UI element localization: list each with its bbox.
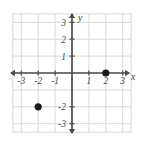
y-tick-label: -2 — [58, 102, 66, 112]
x-tick-label: 3 — [119, 76, 125, 86]
y-tick-label: 1 — [61, 52, 66, 62]
y-axis-arrow-down — [69, 129, 75, 134]
x-tick-label: -3 — [17, 76, 25, 86]
coordinate-plane-figure: -3-2-1123-3-2123 x y — [0, 0, 141, 146]
y-tick-label: -3 — [58, 119, 66, 129]
x-tick-label: 1 — [87, 76, 92, 86]
x-axis-arrow-right — [125, 70, 130, 76]
axes — [10, 13, 130, 134]
coordinate-grid-svg: -3-2-1123-3-2123 x y — [0, 0, 141, 146]
y-axis-label: y — [77, 12, 83, 23]
x-tick-label: 2 — [103, 76, 108, 86]
x-axis-label: x — [130, 71, 136, 82]
x-tick-label: -1 — [51, 76, 59, 86]
plotted-point — [35, 103, 42, 110]
y-tick-label: 2 — [61, 35, 66, 45]
y-tick-label: 3 — [60, 18, 66, 28]
plotted-point — [102, 69, 109, 76]
x-tick-label: -2 — [34, 76, 42, 86]
